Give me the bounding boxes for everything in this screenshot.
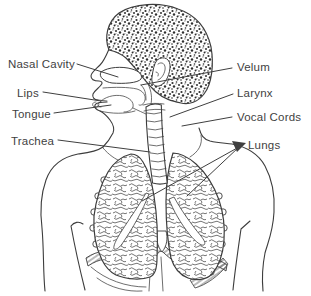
label-larynx: Larynx	[237, 87, 273, 99]
label-lips: Lips	[17, 87, 39, 99]
label-nasal-cavity: Nasal Cavity	[8, 58, 75, 70]
arrowhead-lungs	[232, 141, 246, 152]
label-velum: Velum	[237, 61, 270, 73]
mouth-floor-line	[100, 111, 135, 113]
left-armpit-fold	[71, 222, 85, 290]
label-tongue: Tongue	[12, 108, 51, 120]
label-vocal-cords: Vocal Cords	[237, 111, 301, 123]
right-armpit-fold	[233, 221, 250, 290]
label-trachea: Trachea	[11, 135, 55, 147]
nasal-cavity-shape	[100, 67, 141, 83]
label-lungs: Lungs	[248, 139, 280, 151]
leader-line-trachea	[58, 140, 150, 152]
tongue-shape	[98, 95, 133, 112]
respiratory-anatomy-diagram: Nasal CavityLipsTongueTracheaVelumLarynx…	[0, 0, 311, 296]
left-lung	[94, 154, 158, 279]
hair	[107, 4, 213, 103]
chin-jaw-neck	[95, 102, 114, 147]
diagram-canvas: Nasal CavityLipsTongueTracheaVelumLarynx…	[0, 0, 311, 296]
leader-line-vocal-cords	[182, 117, 232, 126]
